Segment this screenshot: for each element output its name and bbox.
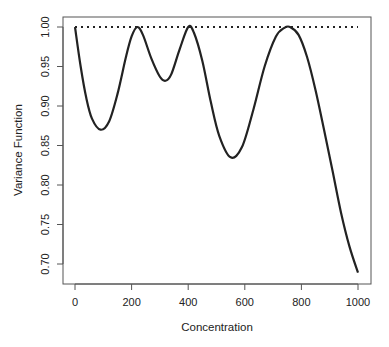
y-tick-label: 0.90 bbox=[39, 95, 51, 116]
series-layer bbox=[75, 26, 358, 273]
y-tick-label: 0.95 bbox=[39, 56, 51, 77]
x-tick-label: 0 bbox=[72, 296, 78, 308]
variance-function-chart: 02004006008001000 0.700.750.800.850.900.… bbox=[0, 0, 389, 347]
x-axis-title: Concentration bbox=[181, 321, 253, 333]
y-tick-label: 0.80 bbox=[39, 174, 51, 195]
y-tick-label: 0.85 bbox=[39, 135, 51, 156]
y-tick-label: 0.70 bbox=[39, 253, 51, 274]
y-axis: 0.700.750.800.850.900.951.00 bbox=[39, 16, 63, 274]
variance-curve bbox=[75, 26, 358, 273]
y-tick-label: 1.00 bbox=[39, 16, 51, 37]
x-tick-label: 800 bbox=[292, 296, 310, 308]
x-tick-label: 600 bbox=[236, 296, 254, 308]
y-tick-label: 0.75 bbox=[39, 214, 51, 235]
y-axis-title: Variance Function bbox=[12, 104, 24, 196]
x-tick-label: 1000 bbox=[346, 296, 370, 308]
plot-box bbox=[63, 17, 371, 284]
x-tick-label: 200 bbox=[122, 296, 140, 308]
x-axis: 02004006008001000 bbox=[72, 284, 370, 308]
x-tick-label: 400 bbox=[179, 296, 197, 308]
